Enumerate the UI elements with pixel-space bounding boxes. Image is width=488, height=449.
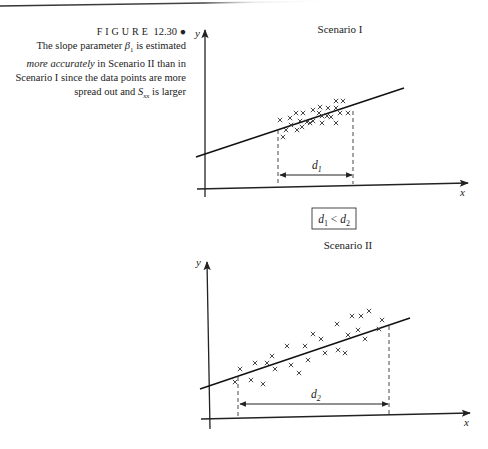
comparison-box: d1 < d2 [312,208,356,229]
figure-diagram: Scenario I y x d1 [0,0,488,449]
x-axis [201,413,470,419]
scenario-1-plot: Scenario I y x d1 [194,23,468,198]
x-axis-label: x [459,186,465,198]
x-axis [197,183,468,189]
y-axis-label: y [194,27,200,39]
scenario-1-title: Scenario I [318,23,363,35]
x-axis-label: x [463,416,469,428]
scenario-2-data-points [233,309,384,386]
y-axis-label: y [195,256,201,268]
scenario-1-data-points [278,99,350,139]
scenario-2-title: Scenario II [324,239,373,251]
comparison-text: d1 < d2 [318,213,350,228]
d1-label: d1 [312,159,322,174]
regression-line [196,88,404,157]
y-axis [207,262,210,429]
d2-label: d2 [311,388,321,403]
scenario-2-plot: Scenario II y x d2 [195,239,470,429]
